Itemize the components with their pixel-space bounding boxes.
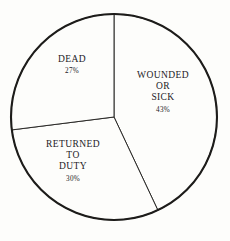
pie-label-wounded-or-sick: WOUNDED OR SICK 43% [120,70,206,114]
pie-label-dead: DEAD 27% [30,54,114,76]
pie-label-wounded-line3: SICK [120,92,206,103]
pie-label-returned-to-duty: RETURNED TO DUTY 30% [26,139,120,183]
pie-label-returned-percent: 30% [26,175,120,183]
pie-label-returned-line1: RETURNED [26,139,120,150]
pie-label-dead-line1: DEAD [30,54,114,65]
pie-label-wounded-line1: WOUNDED [120,70,206,81]
pie-label-dead-percent: 27% [30,67,114,75]
pie-label-returned-line3: DUTY [26,161,120,172]
pie-chart-canvas [0,0,230,241]
pie-label-wounded-percent: 43% [120,106,206,114]
pie-label-wounded-line2: OR [120,81,206,92]
pie-label-returned-line2: TO [26,150,120,161]
pie-chart: DEAD 27% WOUNDED OR SICK 43% RETURNED TO… [0,0,230,241]
